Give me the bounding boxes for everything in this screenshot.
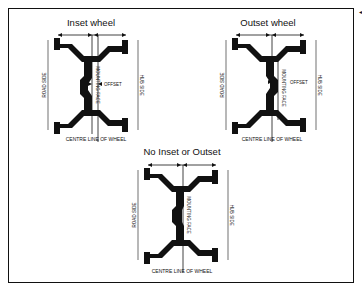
mounting-face-label: MOUNTING FACE	[95, 66, 100, 104]
road-side-label: ROAD SIDE	[220, 73, 225, 98]
mounting-face-label: MOUNTING FACE	[281, 69, 286, 107]
offset-label: OFFSET	[290, 80, 308, 85]
no-offset-wheel-title: No Inset or Outset	[143, 146, 220, 157]
inset-wheel-title: Inset wheel	[67, 17, 115, 28]
mounting-face-label: MOUNTING FACE	[186, 196, 191, 234]
outset-wheel-diagram: OFFSET ROAD SIDE HUB SIDE MOUNTING FACE	[218, 30, 328, 142]
offset-label: OFFSET	[104, 82, 122, 87]
road-side-label: ROAD SIDE	[42, 73, 47, 98]
hub-side-label: HUB SIDE	[317, 74, 322, 95]
no-offset-centre-line-label: CENTRE LINE OF WHEEL	[152, 268, 213, 274]
no-offset-wheel-diagram: ROAD SIDE HUB SIDE MOUNTING FACE	[130, 160, 240, 272]
inset-wheel-diagram: OFFSET ROAD SIDE HUB SIDE MOUNTING FACE	[40, 30, 150, 142]
hub-side-label: HUB SIDE	[229, 204, 234, 225]
outset-centre-line-label: CENTRE LINE OF WHEEL	[242, 136, 303, 142]
outset-wheel-title: Outset wheel	[240, 17, 295, 28]
hub-side-label: HUB SIDE	[139, 74, 144, 95]
road-side-label: ROAD SIDE	[132, 203, 137, 228]
inset-centre-line-label: CENTRE LINE OF WHEEL	[66, 136, 127, 142]
